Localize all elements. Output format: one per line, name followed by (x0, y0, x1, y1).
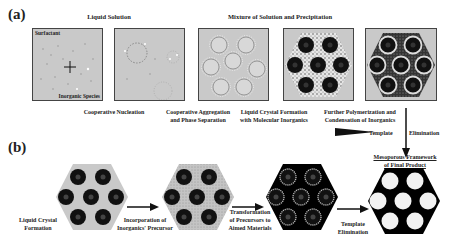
caption-b-incorporation: Incorporation of Inorganics' Precursor (110, 216, 180, 232)
dispersed-species-graphic (33, 29, 102, 100)
arrow-right-icon (127, 203, 159, 211)
label-elimination: Elimination (409, 129, 439, 137)
stage-box-polymerization (365, 28, 437, 101)
caption-polymerization: Further Polymerization and Condensation … (320, 108, 400, 124)
stage-box-aggregation (198, 28, 269, 101)
arrow-right-icon (337, 205, 369, 213)
aggregation-graphic (199, 29, 268, 100)
stage-box-nucleation (114, 28, 185, 101)
process-arrow-icon (75, 126, 375, 138)
stage-box-liquid-crystal (283, 28, 354, 101)
label-inorganic-species: Inorganic Species (59, 93, 100, 99)
nucleation-graphic (115, 29, 184, 100)
label-template: Template (369, 129, 393, 137)
header-mixture: Mixture of Solution and Precipitation (200, 13, 360, 20)
caption-aggregation: Cooperative Aggregation and Phase Separa… (158, 108, 238, 124)
label-surfactant: Surfactant (35, 30, 60, 36)
polymerization-graphic (366, 29, 436, 100)
caption-b-template-elimination: Template Elimination (330, 220, 376, 236)
caption-b-liquid-crystal: Liquid Crystal Formation (8, 216, 68, 232)
header-liquid-solution: Liquid Solution (32, 13, 186, 20)
stage-box-liquid-solution: Surfactant Inorganic Species (32, 28, 103, 101)
caption-liquid-crystal: Liquid Crystal Formation with Molecular … (234, 108, 314, 124)
caption-b-transformation: Transformation of Precursors to Aimed Ma… (222, 208, 278, 232)
liquid-crystal-graphic (284, 29, 353, 100)
caption-cooperative-nucleation: Cooperative Nucleation (74, 108, 154, 116)
panel-b-label: (b) (8, 139, 26, 156)
panel-a-label: (a) (8, 6, 26, 23)
hex-mesoporous-framework (367, 167, 441, 235)
